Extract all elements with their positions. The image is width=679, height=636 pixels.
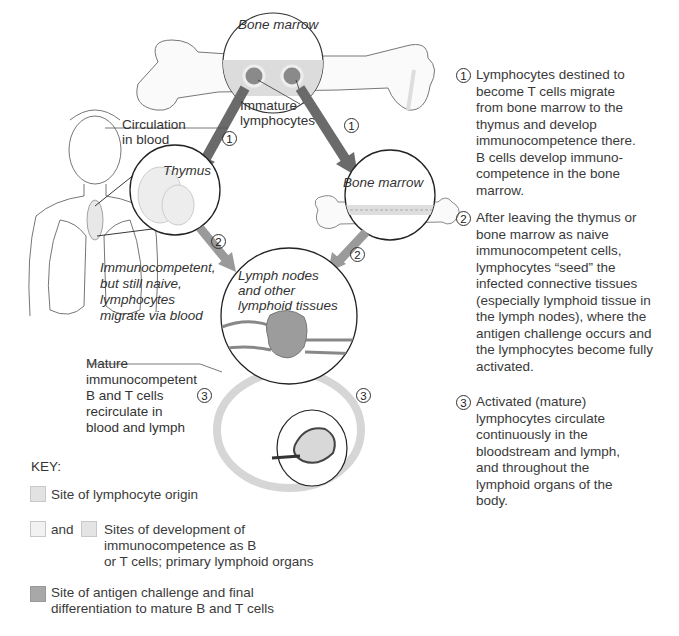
note-text-2: After leaving the thymus or bone marrow … xyxy=(476,210,676,375)
step-marker-2-left: 2 xyxy=(211,234,226,249)
step-marker-3-left: 3 xyxy=(197,388,212,403)
step-marker-3-right: 3 xyxy=(356,388,371,403)
note-text-1: Lymphocytes destined to become T cells m… xyxy=(476,67,676,199)
key-swatch-thymus xyxy=(30,521,46,537)
label-lymph-nodes: Lymph nodes and other lymphoid tissues xyxy=(238,268,338,313)
lymph-vessel-magnifier xyxy=(272,410,347,486)
note-number-3: 3 xyxy=(456,395,471,410)
key-swatch-antigen xyxy=(30,586,46,602)
key-swatch-bone-marrow xyxy=(81,521,97,537)
step-marker-1-left: 1 xyxy=(222,131,237,146)
note-number-2: 2 xyxy=(456,211,471,226)
key-text-antigen: Site of antigen challenge and final diff… xyxy=(51,585,274,617)
label-thymus: Thymus xyxy=(163,163,211,179)
note-number-1: 1 xyxy=(456,68,471,83)
thymus-magnifier xyxy=(130,145,220,235)
label-bone-marrow-right: Bone marrow xyxy=(343,175,423,191)
note-text-3: Activated (mature) lymphocytes circulate… xyxy=(476,394,676,510)
key-title: KEY: xyxy=(31,459,61,474)
key-text-development: Sites of development of immunocompetence… xyxy=(104,522,314,570)
key-joiner-and: and xyxy=(51,522,74,538)
label-bone-marrow-top: Bone marrow xyxy=(238,17,318,33)
label-immature-lymphocytes: Immature lymphocytes xyxy=(240,98,315,128)
label-immunocompetent-naive: Immunocompetent, but still naive, lympho… xyxy=(100,260,216,324)
label-mature-recirculate: Mature immunocompetent B and T cells rec… xyxy=(86,356,197,436)
label-circulation-in-blood: Circulation in blood xyxy=(122,117,186,147)
step-marker-2-right: 2 xyxy=(350,247,365,262)
key-text-origin: Site of lymphocyte origin xyxy=(51,487,198,503)
key-swatch-origin xyxy=(30,486,46,502)
step-marker-1-right: 1 xyxy=(344,118,359,133)
bone-illustration-right xyxy=(315,150,459,240)
